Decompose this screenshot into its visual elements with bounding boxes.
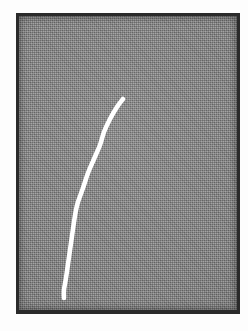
figure-root xyxy=(0,0,248,331)
plate-halftone-field xyxy=(19,16,237,310)
plate-frame xyxy=(16,13,240,314)
